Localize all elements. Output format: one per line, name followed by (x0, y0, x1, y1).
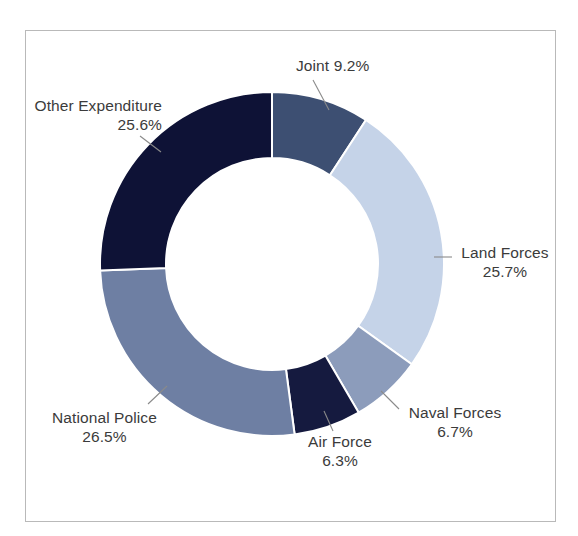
donut-slice-land-forces[interactable] (330, 120, 444, 364)
slice-label-air-force-value: 6.3% (295, 451, 385, 470)
donut-chart: Joint 9.2% Other Expenditure 25.6% Land … (0, 0, 578, 536)
slice-label-other-expenditure-name: Other Expenditure (34, 96, 162, 115)
slice-label-air-force: Air Force 6.3% (295, 432, 385, 470)
slice-label-naval-forces-value: 6.7% (400, 422, 510, 441)
slice-label-joint: Joint 9.2% (296, 56, 369, 75)
slice-label-land-forces-name: Land Forces (455, 243, 555, 262)
donut-slice-group (100, 92, 444, 436)
slice-label-other-expenditure-value: 25.6% (34, 115, 162, 134)
slice-label-naval-forces: Naval Forces 6.7% (400, 403, 510, 441)
slice-label-national-police-name: National Police (38, 408, 171, 427)
slice-label-national-police-value: 26.5% (38, 427, 171, 446)
leader-line-naval-forces (381, 391, 399, 409)
slice-label-other-expenditure: Other Expenditure 25.6% (34, 96, 162, 134)
slice-label-naval-forces-name: Naval Forces (400, 403, 510, 422)
slice-label-land-forces-value: 25.7% (455, 262, 555, 281)
slice-label-joint-value: 9.2% (334, 57, 370, 74)
slice-label-land-forces: Land Forces 25.7% (455, 243, 555, 281)
slice-label-national-police: National Police 26.5% (38, 408, 171, 446)
slice-label-air-force-name: Air Force (295, 432, 385, 451)
slice-label-joint-name: Joint (296, 57, 329, 74)
